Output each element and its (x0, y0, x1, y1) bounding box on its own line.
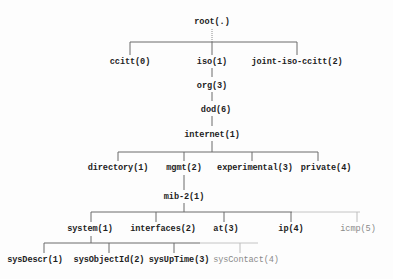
node-dod: dod(6) (201, 105, 231, 115)
node-sysDescr: sysDescr(1) (7, 255, 63, 265)
node-directory: directory(1) (88, 163, 149, 173)
node-ccitt: ccitt(0) (110, 57, 150, 67)
node-mgmt: mgmt(2) (166, 163, 201, 173)
node-iso: iso(1) (197, 57, 227, 67)
node-org: org(3) (197, 81, 227, 91)
node-private: private(4) (301, 163, 352, 173)
node-at: at(3) (213, 224, 238, 234)
node-joint-iso-ccitt: joint-iso-ccitt(2) (251, 57, 342, 67)
node-sysContact: sysContact(4) (213, 255, 279, 265)
node-ip: ip(4) (278, 224, 303, 234)
node-sysUpTime: sysUpTime(3) (149, 255, 210, 265)
node-root: root(.) (194, 17, 229, 27)
node-mib-2: mib-2(1) (164, 192, 204, 202)
node-sysObjectId: sysObjectId(2) (74, 255, 145, 265)
node-icmp: icmp(5) (340, 224, 375, 234)
node-system: system(1) (67, 224, 113, 234)
node-interfaces: interfaces(2) (130, 224, 196, 234)
node-internet: internet(1) (184, 130, 240, 140)
node-experimental: experimental(3) (217, 163, 293, 173)
